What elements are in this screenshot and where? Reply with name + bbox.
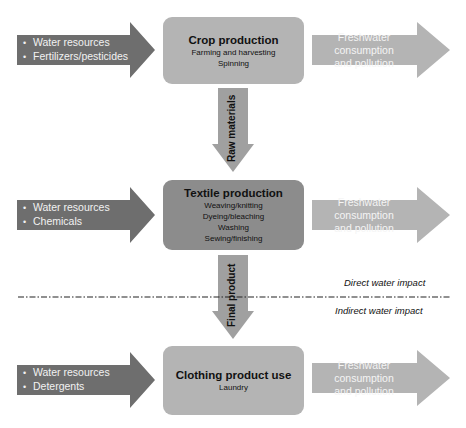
stage-detail: Spinning bbox=[218, 58, 249, 69]
output-arrow-textile: Freshwater consumption and pollution bbox=[312, 187, 452, 243]
input-item: Water resources bbox=[23, 36, 128, 50]
output-text-textile: Freshwater consumption and pollution bbox=[312, 187, 416, 243]
input-list-textile: Water resources Chemicals bbox=[23, 187, 110, 243]
indirect-impact-label: Indirect water impact bbox=[335, 305, 423, 316]
input-item: Detergents bbox=[23, 380, 110, 394]
output-line: and pollution bbox=[334, 385, 394, 398]
input-item: Fertilizers/pesticides bbox=[23, 50, 128, 64]
output-line: Freshwater consumption bbox=[312, 196, 416, 222]
input-item: Water resources bbox=[23, 366, 110, 380]
input-list-crop: Water resources Fertilizers/pesticides bbox=[23, 22, 128, 78]
direct-indirect-divider bbox=[18, 296, 450, 298]
output-line: Freshwater consumption bbox=[312, 359, 416, 385]
stage-box-crop-production: Crop production Farming and harvesting S… bbox=[163, 17, 304, 84]
stage-title: Textile production bbox=[184, 186, 283, 200]
output-line: and pollution bbox=[334, 222, 394, 235]
output-line: and pollution bbox=[334, 57, 394, 70]
stage-box-clothing-product-use: Clothing product use Laundry bbox=[163, 346, 304, 415]
output-arrow-clothing: Freshwater consumption and pollution bbox=[312, 350, 452, 406]
flow-label: Raw materials bbox=[226, 95, 237, 162]
stage-detail: Dyeing/bleaching bbox=[203, 211, 264, 222]
stage-detail: Washing bbox=[218, 222, 249, 233]
input-arrow-textile: Water resources Chemicals bbox=[17, 187, 157, 243]
output-text-crop: Freshwater consumption and pollution bbox=[312, 22, 416, 78]
direct-impact-label: Direct water impact bbox=[344, 277, 425, 288]
input-arrow-crop: Water resources Fertilizers/pesticides bbox=[17, 22, 157, 78]
input-list-clothing: Water resources Detergents bbox=[23, 352, 110, 408]
input-arrow-clothing: Water resources Detergents bbox=[17, 352, 157, 408]
stage-detail: Farming and harvesting bbox=[191, 47, 275, 58]
output-line: Freshwater consumption bbox=[312, 31, 416, 57]
flow-arrow-raw-materials: Raw materials bbox=[212, 88, 254, 172]
input-item: Chemicals bbox=[23, 215, 110, 229]
stage-title: Clothing product use bbox=[176, 368, 292, 382]
stage-box-textile-production: Textile production Weaving/knitting Dyei… bbox=[163, 180, 304, 250]
stage-title: Crop production bbox=[188, 33, 278, 47]
stage-detail: Sewing/finishing bbox=[205, 233, 263, 244]
stage-detail: Laundry bbox=[219, 382, 248, 393]
output-text-clothing: Freshwater consumption and pollution bbox=[312, 350, 416, 406]
output-arrow-crop: Freshwater consumption and pollution bbox=[312, 22, 452, 78]
input-item: Water resources bbox=[23, 201, 110, 215]
stage-detail: Weaving/knitting bbox=[204, 200, 263, 211]
